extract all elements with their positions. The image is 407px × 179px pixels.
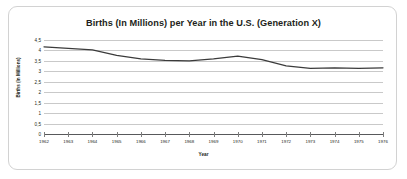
y-axis-tick-label: 4,5 [35,38,41,43]
x-axis-tick-label: 1970 [233,139,243,144]
x-axis-tick-label: 1976 [378,139,388,144]
y-axis-tick-label: 4 [38,48,41,53]
x-axis-tick-label: 1963 [63,139,73,144]
chart-title: Births (In Millions) per Year in the U.S… [9,18,398,28]
y-axis-tick-label: 1 [38,111,41,116]
y-axis-tick-label: 3,5 [35,58,41,63]
x-axis-tick-label: 1973 [305,139,315,144]
x-axis-tick-label: 1969 [209,139,219,144]
x-axis-tick-label: 1966 [136,139,146,144]
x-axis-tick-label: 1974 [330,139,340,144]
x-axis-tick-label: 1965 [112,139,122,144]
chart-figure: Births (In Millions) per Year in the U.S… [8,6,397,170]
x-axis-tick-label: 1971 [257,139,267,144]
y-axis-tick-label: 2 [38,90,41,95]
y-axis-tick-label: 2,5 [35,79,41,84]
x-axis-label: Year [9,152,398,157]
y-axis-tick-label: 0 [38,132,41,137]
x-axis-tick-label: 1964 [88,139,98,144]
x-axis-tick-mark [383,132,384,137]
x-axis-tick-label: 1967 [160,139,170,144]
x-axis-tick-label: 1975 [354,139,364,144]
x-axis-tick-label: 1968 [184,139,194,144]
line-series [44,40,383,134]
y-axis-tick-label: 3 [38,69,41,74]
y-axis-tick-label: 0,5 [35,121,41,126]
plot-area: 4,543,532,521,510,50 1962196319641965196… [44,40,383,134]
x-axis-tick-label: 1972 [281,139,291,144]
y-axis-tick-label: 1,5 [35,100,41,105]
x-axis-tick-label: 1962 [39,139,49,144]
y-axis-label: Births (In Millions) [16,50,21,106]
